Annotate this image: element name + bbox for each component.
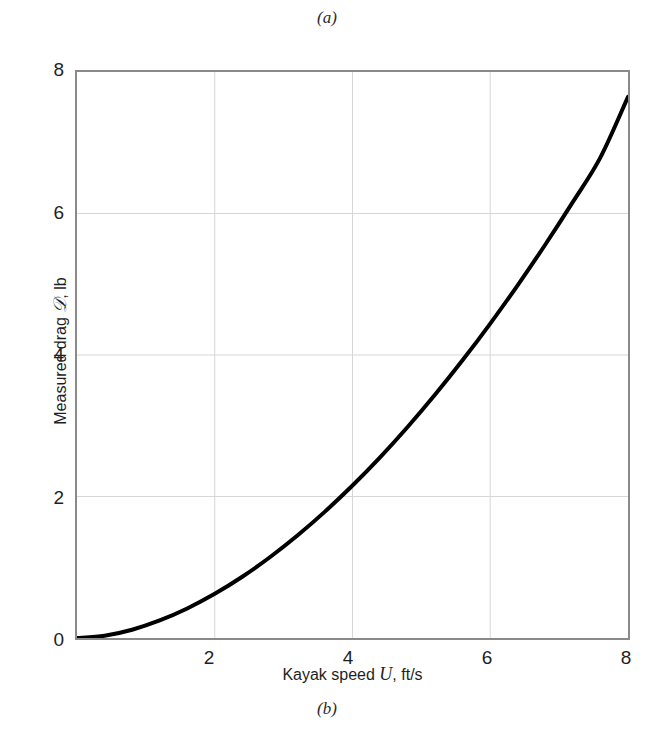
y-axis-title-prefix: Measured drag (52, 317, 69, 425)
x-axis-title-suffix: , ft/s (392, 666, 422, 683)
figure-caption-b: (b) (0, 699, 654, 719)
plot-area (75, 70, 630, 640)
x-axis-symbol: U (379, 664, 392, 684)
chart-svg (77, 72, 628, 638)
gridlines (77, 72, 628, 638)
y-axis-title-suffix: , lb (52, 277, 69, 298)
x-axis-title: Kayak speed U, ft/s (75, 664, 630, 685)
y-axis-title: Measured drag 𝒟, lb (49, 131, 71, 571)
figure-caption-a: (a) (0, 8, 654, 28)
y-tick-label-0: 0 (4, 630, 64, 649)
x-axis-title-prefix: Kayak speed (282, 666, 375, 683)
y-tick-label-8: 8 (4, 60, 64, 79)
y-axis-symbol: 𝒟 (49, 299, 70, 313)
